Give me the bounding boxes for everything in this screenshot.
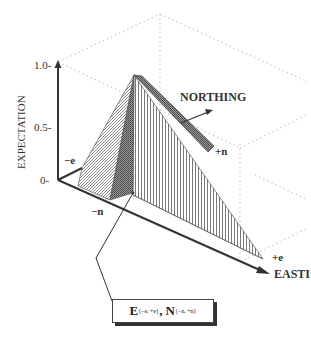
northing-arrow xyxy=(181,109,213,123)
legend-e-range: (−e, +e) xyxy=(139,308,158,314)
tick-0: 0- xyxy=(40,175,49,186)
easting-label: EASTI xyxy=(274,268,310,280)
legend-n-range: (−n, +n) xyxy=(176,308,196,314)
y-axis-label: EXPECTATION xyxy=(16,95,27,169)
grid-lines xyxy=(58,14,308,262)
tick-1-0: 1.0- xyxy=(34,60,51,71)
legend-e-symbol: E xyxy=(129,303,138,319)
legend-box: E (−e, +e) , N (−n, +n) xyxy=(112,299,214,323)
expectation-pyramid-diagram xyxy=(0,0,311,339)
tick-0-5: 0.5- xyxy=(34,122,51,133)
label-pos-n: +n xyxy=(215,146,227,157)
legend-separator: , xyxy=(159,303,162,319)
legend-n-symbol: N xyxy=(165,303,174,319)
label-pos-e: +e xyxy=(272,252,283,263)
northing-label: NORTHING xyxy=(180,91,246,103)
label-neg-n: −n xyxy=(91,206,103,217)
label-neg-e: −e xyxy=(64,155,75,166)
